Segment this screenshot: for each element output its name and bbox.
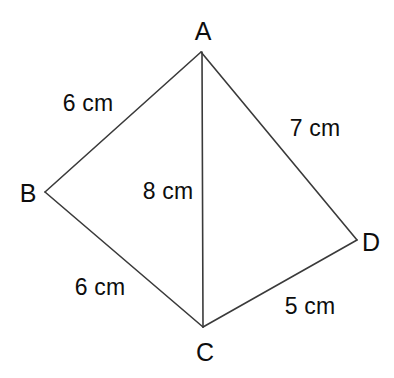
geometry-diagram: A B C D 6 cm 7 cm 8 cm 6 cm 5 cm: [0, 0, 394, 378]
vertex-label-A: A: [195, 19, 212, 44]
measurement-label-AC: 8 cm: [143, 180, 194, 203]
measurement-label-BC: 6 cm: [75, 276, 126, 299]
vertex-label-D: D: [362, 230, 380, 255]
vertex-label-C: C: [196, 340, 214, 365]
measurement-label-AB: 6 cm: [63, 92, 114, 115]
measurement-label-AD: 7 cm: [290, 117, 341, 140]
vertex-label-B: B: [20, 181, 37, 206]
measurement-label-CD: 5 cm: [285, 295, 336, 318]
label-layer: A B C D 6 cm 7 cm 8 cm 6 cm 5 cm: [0, 0, 394, 378]
